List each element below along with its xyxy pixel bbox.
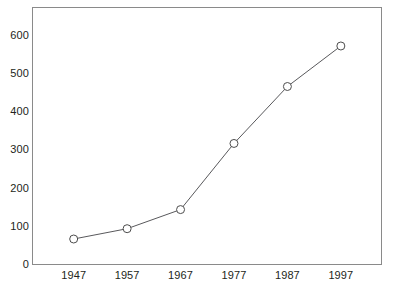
data-point [230, 139, 238, 147]
y-axis-tick-label: 600 [1, 30, 29, 41]
data-point [177, 206, 185, 214]
series-layer [32, 7, 382, 265]
x-axis: 194719571967197719871997 [32, 269, 382, 289]
data-point [283, 83, 291, 91]
data-point [123, 225, 131, 233]
y-axis-tick-label: 0 [1, 259, 29, 270]
y-axis-tick-label: 200 [1, 183, 29, 194]
x-axis-tick-label: 1957 [104, 269, 150, 281]
data-point-markers [70, 42, 345, 243]
x-axis-tick-label: 1947 [51, 269, 97, 281]
x-axis-tick-label: 1987 [264, 269, 310, 281]
data-point [337, 42, 345, 50]
x-axis-tick-label: 1967 [158, 269, 204, 281]
y-axis-tick-label: 500 [1, 68, 29, 79]
y-axis-tick-label: 300 [1, 144, 29, 155]
x-axis-tick-label: 1997 [318, 269, 364, 281]
series-line [74, 46, 341, 239]
data-point [70, 235, 78, 243]
y-axis-tick-label: 100 [1, 221, 29, 232]
y-axis-tick-label: 400 [1, 106, 29, 117]
x-axis-tick-label: 1977 [211, 269, 257, 281]
y-axis: 0100200300400500600 [0, 0, 29, 292]
line-chart: 0100200300400500600 19471957196719771987… [0, 0, 395, 292]
